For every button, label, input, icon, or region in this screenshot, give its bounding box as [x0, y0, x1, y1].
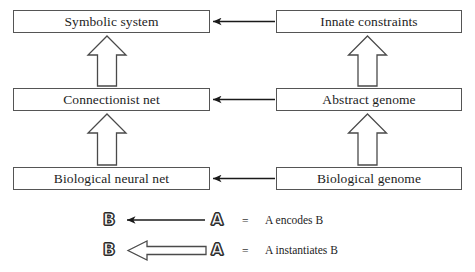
- legend-source-letter-encodes: A: [211, 212, 223, 228]
- legend-meaning-encodes: A encodes B: [265, 215, 323, 227]
- legend-equals-encodes: =: [242, 216, 249, 228]
- legend-source-letter-instantiates: A: [211, 242, 223, 258]
- legend-target-letter-instantiates: B: [103, 242, 115, 258]
- legend-arrow-block: [128, 241, 206, 260]
- edge-inst-left-lower: [88, 114, 126, 165]
- edge-inst-right-upper: [349, 36, 387, 86]
- edge-inst-right-lower: [349, 114, 387, 165]
- arrow-layer: [0, 0, 475, 272]
- edge-inst-left-upper: [88, 36, 126, 86]
- legend-target-letter-encodes: B: [103, 212, 115, 228]
- legend-meaning-instantiates: A instantiates B: [265, 245, 338, 257]
- legend-equals-instantiates: =: [242, 246, 249, 258]
- diagram-root: Symbolic system Innate constraints Conne…: [0, 0, 475, 272]
